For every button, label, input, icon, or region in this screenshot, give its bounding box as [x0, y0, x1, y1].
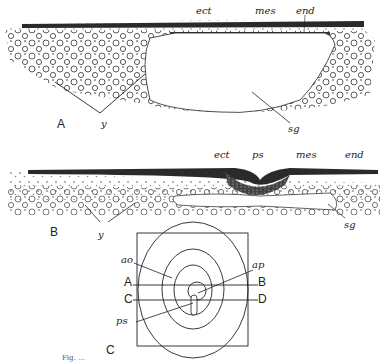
label-ps-b: ps [252, 149, 264, 160]
label-c: C [124, 292, 133, 306]
label-d: D [258, 292, 267, 306]
label-y-a: y [100, 118, 107, 129]
label-mes-a: mes [255, 5, 276, 16]
label-sg-a: sg [288, 123, 300, 134]
label-ect-b: ect [214, 149, 231, 160]
panel-c: ao ap ps A B C D C [106, 222, 267, 358]
label-ap: ap [252, 259, 265, 270]
primitive-streak-c [191, 295, 197, 315]
label-b: B [258, 275, 266, 289]
label-sg-b: sg [344, 219, 356, 230]
panel-a: ect mes end A y sg [5, 5, 375, 134]
panel-label-a: A [57, 117, 65, 131]
label-a: A [124, 275, 132, 289]
label-end-a: end [296, 5, 315, 16]
panel-label-c: C [106, 343, 115, 357]
label-end-b: end [345, 149, 364, 160]
panel-b: ect ps mes end B y sg [8, 149, 380, 240]
label-ao: ao [121, 254, 133, 265]
label-ps-c: ps [116, 315, 128, 326]
panel-label-b: B [50, 225, 58, 239]
figure-caption-partial: Fig. ... [62, 354, 85, 362]
label-mes-b: mes [296, 149, 317, 160]
embryo-section-figure: ect mes end A y sg ect ps mes end B y sg [0, 0, 391, 362]
label-ect-a: ect [196, 5, 213, 16]
label-y-b: y [97, 229, 104, 240]
